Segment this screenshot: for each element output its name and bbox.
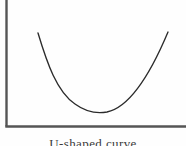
chart-figure: U-shaped curve	[0, 0, 186, 146]
plot-area	[0, 0, 186, 146]
x-axis-label: U-shaped curve	[0, 137, 186, 146]
plot-background	[0, 0, 186, 146]
